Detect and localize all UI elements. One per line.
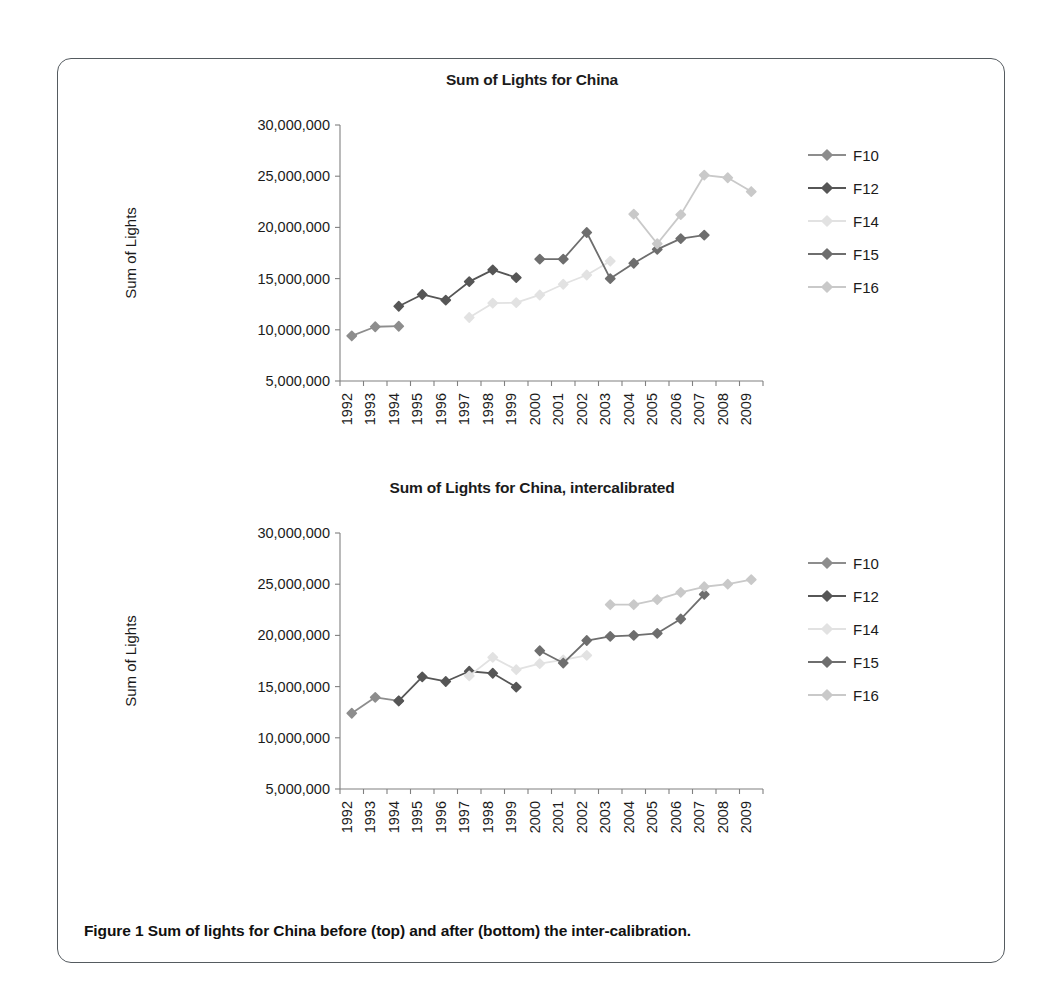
legend-item-F16[interactable]: F16 — [808, 279, 879, 296]
x-tick-label: 2008 — [715, 801, 731, 833]
chart-top: Sum of Lights for China 5,000,00010,000,… — [58, 63, 1006, 463]
legend-label-F14: F14 — [853, 621, 879, 638]
x-tick-label: 2005 — [644, 801, 660, 833]
data-point-marker — [488, 669, 497, 678]
y-tick-label: 10,000,000 — [257, 322, 330, 338]
series-F16 — [606, 575, 756, 609]
legend-item-F14[interactable]: F14 — [808, 213, 879, 230]
data-point-marker — [700, 171, 709, 180]
x-tick-label: 2002 — [574, 393, 590, 425]
data-point-marker — [747, 575, 756, 584]
x-tick-label: 2003 — [597, 393, 613, 425]
legend-label-F10: F10 — [853, 147, 879, 164]
x-tick-label: 1996 — [433, 393, 449, 425]
series-F10 — [347, 693, 403, 718]
data-point-marker — [606, 600, 615, 609]
legend-label-F14: F14 — [853, 213, 879, 230]
data-point-marker — [653, 629, 662, 638]
figure-frame: Sum of Lights for China 5,000,00010,000,… — [57, 58, 1005, 963]
series-F12 — [394, 265, 521, 311]
data-point-marker — [653, 595, 662, 604]
data-point-marker — [700, 230, 709, 239]
data-point-marker — [629, 259, 638, 268]
x-tick-label: 1992 — [339, 393, 355, 425]
data-point-marker — [488, 265, 497, 274]
data-point-marker — [723, 580, 732, 589]
data-point-marker — [606, 257, 615, 266]
x-tick-label: 1999 — [503, 393, 519, 425]
data-point-marker — [535, 659, 544, 668]
data-point-marker — [723, 173, 732, 182]
x-tick-label: 1998 — [480, 393, 496, 425]
legend-item-F15[interactable]: F15 — [808, 654, 879, 671]
x-tick-label: 1996 — [433, 801, 449, 833]
y-tick-label: 30,000,000 — [257, 525, 330, 541]
x-tick-label: 2006 — [668, 393, 684, 425]
legend-label-F10: F10 — [853, 555, 879, 572]
x-tick-label: 2002 — [574, 801, 590, 833]
data-point-marker — [488, 299, 497, 308]
x-tick-label: 1994 — [386, 393, 402, 425]
y-tick-label: 30,000,000 — [257, 117, 330, 133]
data-point-marker — [465, 313, 474, 322]
legend-item-F10[interactable]: F10 — [808, 555, 879, 572]
data-point-marker — [535, 646, 544, 655]
data-point-marker — [371, 322, 380, 331]
data-point-marker — [747, 187, 756, 196]
x-tick-label: 2001 — [550, 393, 566, 425]
x-tick-label: 1999 — [503, 801, 519, 833]
series-F15 — [535, 228, 709, 283]
y-tick-label: 25,000,000 — [257, 168, 330, 184]
x-tick-label: 2004 — [621, 393, 637, 425]
data-point-marker — [582, 651, 591, 660]
data-point-marker — [676, 234, 685, 243]
legend-label-F16: F16 — [853, 687, 879, 704]
x-tick-label: 2004 — [621, 801, 637, 833]
chart-bottom: Sum of Lights for China, intercalibrated… — [58, 471, 1006, 871]
legend-item-F10[interactable]: F10 — [808, 147, 879, 164]
y-tick-label: 10,000,000 — [257, 730, 330, 746]
x-tick-label: 1992 — [339, 801, 355, 833]
x-tick-label: 2003 — [597, 801, 613, 833]
data-point-marker — [535, 255, 544, 264]
data-point-marker — [441, 677, 450, 686]
data-point-marker — [676, 588, 685, 597]
legend-item-F14[interactable]: F14 — [808, 621, 879, 638]
x-tick-label: 1997 — [456, 801, 472, 833]
data-point-marker — [606, 632, 615, 641]
legend-label-F15: F15 — [853, 246, 879, 263]
legend-label-F12: F12 — [853, 588, 879, 605]
x-tick-label: 2000 — [527, 801, 543, 833]
series-F15 — [535, 590, 709, 668]
x-tick-label: 2005 — [644, 393, 660, 425]
x-tick-label: 1993 — [362, 393, 378, 425]
legend-item-F15[interactable]: F15 — [808, 246, 879, 263]
y-tick-label: 5,000,000 — [265, 781, 330, 797]
x-tick-label: 1997 — [456, 393, 472, 425]
y-tick-label: 5,000,000 — [265, 373, 330, 389]
chart-svg-top: 5,000,00010,000,00015,000,00020,000,0002… — [58, 63, 1006, 463]
data-point-marker — [418, 290, 427, 299]
y-axis-title: Sum of Lights — [122, 207, 139, 299]
legend-label-F12: F12 — [853, 180, 879, 197]
legend-item-F16[interactable]: F16 — [808, 687, 879, 704]
x-tick-label: 1995 — [409, 801, 425, 833]
legend-item-F12[interactable]: F12 — [808, 180, 879, 197]
x-tick-label: 2007 — [691, 393, 707, 425]
legend-label-F16: F16 — [853, 279, 879, 296]
data-point-marker — [606, 274, 615, 283]
data-point-marker — [629, 631, 638, 640]
data-point-marker — [512, 665, 521, 674]
data-point-marker — [394, 322, 403, 331]
x-tick-label: 2008 — [715, 393, 731, 425]
series-F12 — [394, 667, 521, 706]
x-tick-label: 2001 — [550, 801, 566, 833]
y-tick-label: 25,000,000 — [257, 576, 330, 592]
data-point-marker — [512, 273, 521, 282]
x-tick-label: 2009 — [738, 393, 754, 425]
data-point-marker — [582, 270, 591, 279]
x-tick-label: 1998 — [480, 801, 496, 833]
data-point-marker — [535, 290, 544, 299]
x-tick-label: 2007 — [691, 801, 707, 833]
legend-item-F12[interactable]: F12 — [808, 588, 879, 605]
